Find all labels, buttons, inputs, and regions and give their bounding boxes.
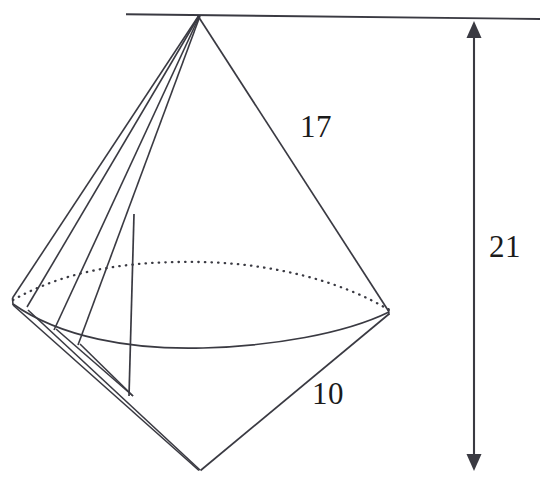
height-dimension-arrowhead-top xyxy=(467,21,482,38)
total-height-label: 21 xyxy=(489,231,521,262)
height-dimension-arrowhead-bottom xyxy=(467,454,482,471)
diagram-canvas xyxy=(0,0,540,496)
ellipse-back-arc-dotted xyxy=(13,262,389,310)
slant-height-label: 17 xyxy=(300,111,332,142)
cone-left-slant-edge-second xyxy=(27,16,199,307)
cone-left-slant-edge-inner xyxy=(78,16,200,345)
lower-cone-left-edge-second xyxy=(28,310,200,470)
cone-left-slant-edge-third xyxy=(54,16,200,330)
base-radius-label: 10 xyxy=(312,378,344,409)
left-vertex-connector xyxy=(13,298,14,305)
ceiling-line xyxy=(126,14,540,19)
cone-diagram: 17 10 21 xyxy=(0,0,540,496)
interior-axis-segment xyxy=(129,214,134,396)
lower-cone-right-edge xyxy=(201,314,390,471)
cone-left-slant-edge-outer xyxy=(13,16,199,298)
lower-cone-left-edge-outer xyxy=(13,305,199,471)
cone-right-slant-edge xyxy=(198,16,389,311)
